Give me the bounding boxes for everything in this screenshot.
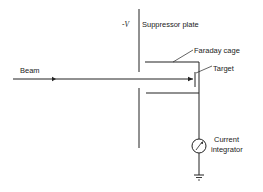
target-label: Target: [213, 65, 234, 73]
current-integrator-label-line2: integrator: [211, 146, 243, 154]
voltage-label: -V: [122, 21, 129, 29]
target-leader: [196, 66, 212, 73]
beam-arrow-icon: [52, 77, 56, 81]
faraday-cage-leader: [173, 50, 193, 62]
beam-arrowhead-target-icon: [188, 77, 193, 81]
beam-label: Beam: [20, 67, 40, 75]
meter-needle: [196, 142, 202, 150]
current-integrator-label-line1: Current: [214, 136, 239, 144]
suppressor-plate-label: Suppressor plate: [142, 21, 199, 29]
faraday-cage-label: Faraday cage: [194, 47, 240, 55]
diagram-canvas: [0, 0, 263, 192]
